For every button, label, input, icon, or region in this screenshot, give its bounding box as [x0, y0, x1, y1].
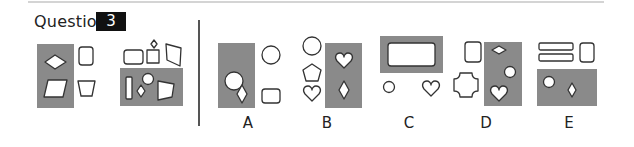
circle-shape — [544, 77, 555, 88]
circle-shape — [303, 37, 321, 55]
rounded-rectangle-shape — [124, 50, 143, 64]
parallelogram-shape — [44, 80, 67, 97]
option-e-figure[interactable] — [537, 43, 597, 106]
option-b-figure[interactable] — [303, 37, 362, 108]
option-b-label[interactable]: B — [317, 114, 337, 132]
shaded-panel — [37, 44, 74, 108]
quadrilateral-shape — [166, 44, 181, 66]
pentagon-shape — [303, 64, 321, 81]
small-square-shape — [147, 50, 159, 63]
rounded-rectangle-shape — [262, 89, 280, 103]
small-circle-shape — [384, 82, 395, 93]
circle-shape — [143, 74, 154, 85]
stem-figure-2 — [120, 40, 183, 106]
bar-shape — [539, 54, 573, 61]
rounded-rectangle-shape — [388, 43, 435, 66]
tall-rectangle-shape — [126, 77, 132, 99]
bar-shape — [539, 43, 573, 50]
circle-shape — [505, 67, 516, 78]
trapezoid-shape — [158, 81, 174, 100]
shaded-panel — [537, 69, 597, 106]
heart-shape — [423, 81, 440, 96]
option-a-figure[interactable] — [218, 43, 280, 108]
option-a-label[interactable]: A — [238, 114, 258, 132]
heart-shape — [304, 86, 321, 101]
option-c-label[interactable]: C — [399, 114, 419, 132]
circle-shape — [262, 46, 280, 64]
option-e-label[interactable]: E — [559, 114, 579, 132]
rounded-rectangle-shape — [79, 47, 93, 65]
small-diamond-shape — [151, 40, 157, 48]
rounded-rectangle-shape — [580, 43, 594, 62]
trapezoid-shape — [78, 81, 95, 96]
option-c-figure[interactable] — [380, 36, 443, 96]
four-point-star-shape — [454, 73, 478, 97]
rounded-rectangle-shape — [465, 42, 481, 62]
option-d-label[interactable]: D — [476, 114, 496, 132]
stem-figure-1 — [37, 44, 95, 108]
option-d-figure[interactable] — [454, 42, 522, 106]
